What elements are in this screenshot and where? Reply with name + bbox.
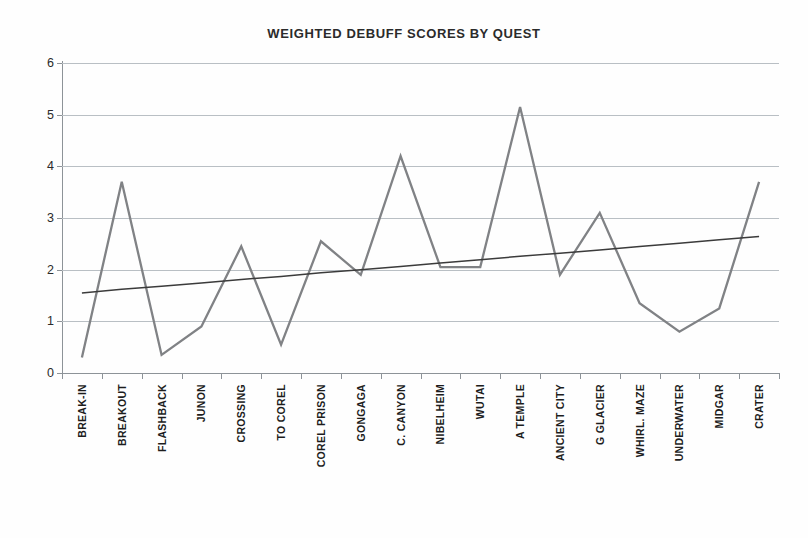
- chart-container: WEIGHTED DEBUFF SCORES BY QUEST 0123456 …: [0, 0, 808, 538]
- x-axis-label-17: CRATER: [753, 384, 765, 429]
- gridline-y-1: [62, 321, 779, 322]
- x-axis-label-9: NIBELHEIM: [434, 384, 446, 444]
- gridline-y-6: [62, 63, 779, 64]
- x-axis-label-0: BREAK-IN: [76, 384, 88, 438]
- x-axis-tick-8: [381, 373, 382, 379]
- x-axis-label-12: ANCIENT CITY: [554, 384, 566, 461]
- x-axis-tick-4: [221, 373, 222, 379]
- y-axis-tick-1: [57, 321, 62, 322]
- y-tick-label-0: 0: [32, 366, 54, 380]
- x-axis-tick-15: [660, 373, 661, 379]
- x-axis-label-15: UNDERWATER: [673, 384, 685, 461]
- x-axis-tick-13: [580, 373, 581, 379]
- x-axis-label-16: MIDGAR: [713, 384, 725, 428]
- x-axis-tick-10: [460, 373, 461, 379]
- x-axis-tick-6: [301, 373, 302, 379]
- gridline-y-5: [62, 115, 779, 116]
- x-axis-label-1: BREAKOUT: [116, 384, 128, 446]
- chart-title: WEIGHTED DEBUFF SCORES BY QUEST: [0, 26, 808, 41]
- y-axis-tick-5: [57, 115, 62, 116]
- y-axis-tick-6: [57, 63, 62, 64]
- x-axis-tick-11: [500, 373, 501, 379]
- x-axis-tick-3: [182, 373, 183, 379]
- y-tick-label-4: 4: [32, 159, 54, 173]
- y-tick-label-2: 2: [32, 263, 54, 277]
- y-axis-tick-labels: 0123456: [30, 63, 54, 374]
- y-tick-label-1: 1: [32, 314, 54, 328]
- x-axis-label-10: WUTAI: [474, 384, 486, 419]
- x-axis-label-14: WHIRL. MAZE: [634, 384, 646, 457]
- x-axis-tick-18: [779, 373, 780, 379]
- x-axis-label-6: COREL PRISON: [315, 384, 327, 467]
- y-tick-label-5: 5: [32, 108, 54, 122]
- x-axis-tick-2: [142, 373, 143, 379]
- x-axis-tick-12: [540, 373, 541, 379]
- y-tick-label-3: 3: [32, 211, 54, 225]
- x-axis-tick-1: [102, 373, 103, 379]
- plot-area: [62, 63, 779, 374]
- x-axis-tick-17: [739, 373, 740, 379]
- y-axis-tick-2: [57, 270, 62, 271]
- x-axis-label-4: CROSSING: [235, 384, 247, 442]
- x-axis-label-13: G GLACIER: [594, 384, 606, 445]
- x-axis-tick-0: [62, 373, 63, 379]
- x-axis-tick-9: [421, 373, 422, 379]
- x-axis-label-2: FLASHBACK: [156, 384, 168, 452]
- x-axis-tick-14: [620, 373, 621, 379]
- x-axis-label-5: TO COREL: [275, 384, 287, 440]
- y-tick-label-6: 6: [32, 56, 54, 70]
- y-axis-tick-4: [57, 166, 62, 167]
- y-axis-tick-3: [57, 218, 62, 219]
- x-axis-label-8: C. CANYON: [395, 384, 407, 446]
- gridline-y-3: [62, 218, 779, 219]
- gridline-y-2: [62, 270, 779, 271]
- x-axis-tick-7: [341, 373, 342, 379]
- gridline-y-4: [62, 166, 779, 167]
- x-axis-tick-16: [699, 373, 700, 379]
- x-axis-label-7: GONGAGA: [355, 384, 367, 442]
- x-axis-tick-5: [261, 373, 262, 379]
- x-axis-label-11: A TEMPLE: [514, 384, 526, 439]
- x-axis-label-3: JUNON: [195, 384, 207, 422]
